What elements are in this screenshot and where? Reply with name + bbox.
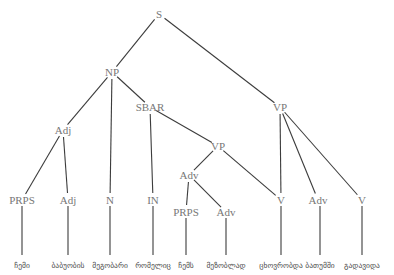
tree-node-adv3: Adv	[309, 195, 328, 206]
tree-edge-layer	[0, 0, 394, 275]
tree-node-in1: IN	[147, 195, 159, 206]
branch-NP-SBAR	[117, 77, 145, 103]
tree-node-adv2: Adv	[217, 207, 236, 218]
branch-VPR-ADV3	[283, 113, 316, 193]
tree-node-adv1: Adv	[180, 170, 199, 181]
tree-node-adj1: Adj	[55, 125, 72, 136]
tree-leaf-word-adv2: მეზობლად	[206, 262, 245, 270]
parse-tree-figure: SNPVPAdjSBARPRPSAdjNINVPAdvPRPSAdvVAdvV …	[0, 0, 394, 275]
branch-NP-N1	[110, 79, 112, 193]
tree-node-v2: V	[358, 195, 366, 206]
branch-ADJ1-PRPS1	[26, 136, 60, 194]
tree-leaf-word-prps1: ჩემი	[14, 262, 30, 270]
tree-node-sbar: SBAR	[136, 102, 165, 113]
tree-leaf-word-adj2: ბაბუობის	[51, 262, 84, 270]
tree-node-v1: V	[277, 195, 285, 206]
tree-node-adj2: Adj	[60, 195, 77, 206]
branch-VPR-V1	[280, 114, 281, 193]
branch-ADV1-ADV2	[194, 180, 221, 207]
tree-leaf-word-prps2: ჩემს	[178, 262, 194, 270]
tree-leaf-word-n1: მეგობარი	[92, 262, 128, 270]
branch-S-VPR	[165, 18, 275, 102]
tree-leaf-word-adv3: ბათუმში	[305, 262, 334, 270]
branch-S-NP	[116, 19, 154, 66]
tree-node-prps1: PRPS	[9, 195, 35, 206]
tree-node-n1: N	[106, 195, 114, 206]
branch-ADV1-PRPS2	[187, 182, 189, 205]
branch-ADJ1-ADJ2	[63, 137, 67, 193]
tree-node-vpi: VP	[211, 141, 225, 152]
tree-leaf-word-v2: გადავიდა	[344, 262, 380, 270]
branch-SBAR-IN1	[150, 114, 153, 193]
tree-node-s: S	[156, 9, 162, 20]
branch-VPI-ADV1	[194, 151, 213, 170]
tree-node-vpr: VP	[273, 102, 287, 113]
tree-node-np: NP	[105, 67, 119, 78]
branch-SBAR-VPI	[156, 110, 212, 142]
branch-VPI-V1	[223, 151, 275, 196]
tree-node-prps2: PRPS	[173, 207, 199, 218]
branch-NP-ADJ1	[68, 77, 108, 124]
tree-leaf-word-v1: ცხოვრობდა	[259, 262, 303, 270]
branch-VPR-V2	[285, 112, 358, 194]
tree-leaf-word-in1: რომელიც	[135, 262, 171, 270]
